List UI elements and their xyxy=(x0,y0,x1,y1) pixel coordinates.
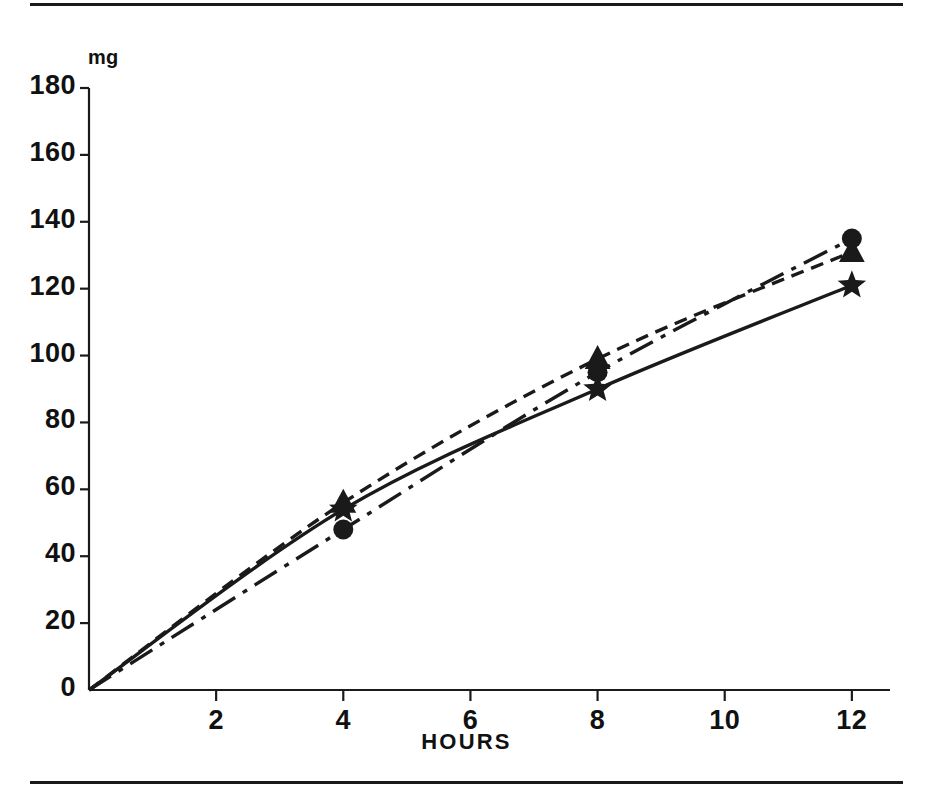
x-axis-title: HOURS xyxy=(0,729,933,755)
series-group xyxy=(89,239,852,691)
series-line-star xyxy=(89,285,852,690)
data-marker-star xyxy=(329,494,358,521)
data-marker-circle xyxy=(333,519,353,539)
markers-group xyxy=(329,229,866,540)
series-line-triangle xyxy=(89,252,852,690)
figure-container: mg 020406080100120140160180 24681012 HOU… xyxy=(0,0,933,804)
axes-group xyxy=(80,88,890,701)
data-marker-star xyxy=(838,270,867,297)
data-marker-triangle xyxy=(585,345,611,369)
plot-area xyxy=(0,0,933,804)
series-line-circle xyxy=(89,239,852,691)
